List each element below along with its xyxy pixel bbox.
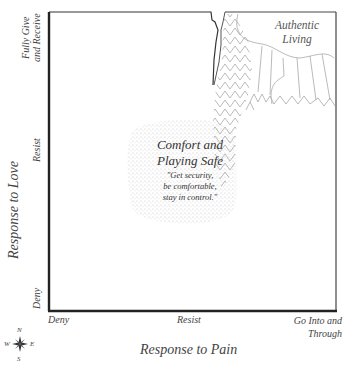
y-tick-resist: Resist: [31, 138, 42, 162]
compass-s: S: [17, 355, 21, 363]
authentic-living-label: Authentic Living: [262, 18, 332, 46]
y-axis-title: Response to Love: [6, 161, 22, 259]
region-title-line: Living: [262, 32, 332, 46]
y-tick-line: and Receive: [31, 13, 42, 62]
region-title-line: Comfort and: [140, 137, 240, 153]
x-axis-title: Response to Pain: [140, 342, 237, 358]
x-tick-go-into: Go Into and Through: [280, 314, 342, 340]
y-tick-deny: Deny: [31, 288, 42, 309]
y-tick-fully-give: Fully Give and Receive: [20, 13, 42, 62]
compass-n: N: [17, 326, 22, 334]
x-tick-line: Through: [280, 327, 342, 340]
region-title-line: Authentic: [262, 18, 332, 32]
region-quote-line: stay in control.": [140, 192, 240, 203]
region-quote-line: be comfortable,: [140, 181, 240, 192]
region-quote-line: "Get security,: [140, 170, 240, 181]
compass-rose-icon: [12, 336, 28, 352]
region-title-line: Playing Safe: [140, 153, 240, 169]
y-tick-line: Fully Give: [20, 13, 31, 62]
x-tick-deny: Deny: [48, 314, 69, 325]
comfort-region-label: Comfort and Playing Safe "Get security, …: [140, 137, 240, 203]
x-tick-resist: Resist: [177, 314, 201, 325]
compass-e: E: [30, 340, 34, 348]
x-tick-line: Go Into and: [280, 314, 342, 327]
compass-w: W: [4, 340, 10, 348]
